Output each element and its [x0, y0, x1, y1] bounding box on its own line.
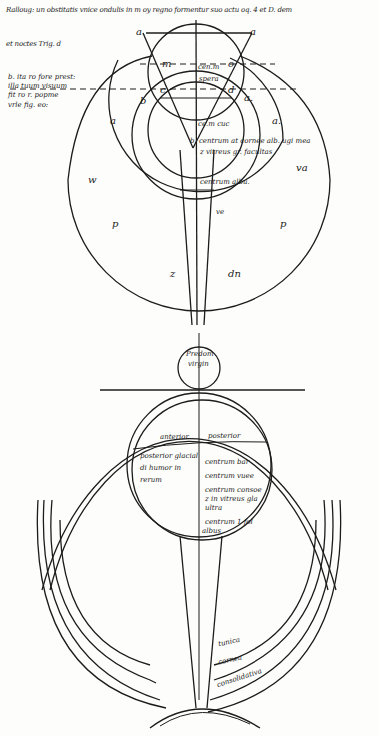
- point-a-right: a: [250, 26, 256, 37]
- brain-arc-outer: [150, 709, 260, 728]
- tunic-right-1: [214, 500, 325, 680]
- side-note-line: b. ita ro fore prest:: [8, 73, 75, 81]
- point-c: c: [160, 84, 166, 95]
- hemisphere-left-label: anterior: [160, 433, 189, 441]
- point-b: b: [140, 95, 146, 106]
- label-a-left-ring: a: [110, 115, 116, 126]
- label-center-top: cen.m: [198, 63, 219, 71]
- right-mark: centrum vuee: [205, 472, 254, 480]
- optic-nerve-left: [180, 150, 192, 325]
- label-dn: dn: [228, 268, 241, 279]
- outer-arc-1: [42, 439, 336, 590]
- label-p-left: p: [112, 218, 118, 229]
- left-note-line: di humor in: [140, 464, 181, 472]
- lens-label-2: virgin: [188, 360, 209, 368]
- side-note-line: vrle fig. eo:: [8, 101, 48, 109]
- point-a-mid: a.: [244, 92, 253, 103]
- side-note-line: illa tuum visuum: [8, 82, 67, 90]
- left-note-line: rerum: [140, 476, 162, 484]
- side-note-line: fit ro r. popme: [8, 91, 58, 99]
- point-a-left: a.: [136, 26, 145, 37]
- right-mark: centrum 1 fol: [205, 518, 253, 526]
- right-mark: centrum consoe: [205, 486, 262, 494]
- right-mark: z in vitreus gla: [205, 495, 258, 503]
- label-b-note-2: z vitreus gr. facultas: [200, 148, 272, 156]
- outer-arc-2: [50, 441, 328, 590]
- point-m: m: [162, 58, 171, 69]
- hemisphere-right-label: posterior: [208, 432, 240, 440]
- lower-nerve-left: [180, 536, 196, 708]
- label-b-note-1: b. centrum at cornee alb. ugi mea: [190, 137, 311, 145]
- header-line-2: et noctes Trig. d: [6, 40, 61, 48]
- right-mark: ultra: [205, 504, 222, 512]
- header-line-1: Ralloug: un obstitatis vnice ondulis in …: [6, 6, 292, 14]
- optic-axis: [196, 20, 197, 325]
- tunic-left-4: [60, 520, 150, 665]
- label-ve: ve: [216, 208, 224, 216]
- label-z: z: [170, 268, 175, 279]
- label-a-right-ring: a.: [272, 115, 281, 126]
- right-mark: albus: [202, 527, 221, 535]
- left-note-line: posterior glacial: [140, 452, 198, 460]
- right-mark: centrum bar: [205, 458, 249, 466]
- label-albu: centrum albu.: [200, 178, 250, 186]
- point-o: o: [228, 58, 234, 69]
- label-cuc: ce.m cuc: [198, 120, 230, 128]
- eye-diagram-drawing: [0, 0, 379, 736]
- point-d: d: [228, 84, 234, 95]
- lens-label-1: Predom: [186, 350, 214, 358]
- label-outer-left: w: [88, 174, 97, 185]
- label-p-right: p: [280, 218, 286, 229]
- tunic-left-2: [43, 500, 160, 700]
- outer-globe: [68, 56, 330, 311]
- label-outer-right: va: [296, 162, 308, 173]
- label-center-sub: spera: [199, 75, 219, 83]
